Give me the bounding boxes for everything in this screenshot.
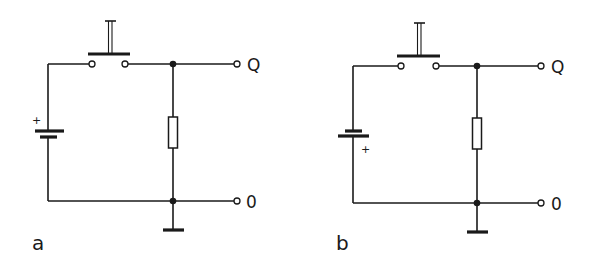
- output-terminal-q: [234, 61, 240, 67]
- switch-contact-right: [122, 61, 128, 67]
- switch-contact-left: [89, 61, 95, 67]
- push-button-switch-icon: [397, 23, 440, 69]
- circuit-figure: + Q 0 a: [0, 0, 591, 263]
- output-terminal-q: [538, 63, 544, 69]
- output-label-q: Q: [551, 57, 564, 77]
- resistor-icon: [473, 118, 482, 149]
- figure-label-a: a: [32, 231, 44, 255]
- circuit-b: + Q 0 b: [336, 23, 564, 255]
- switch-contact-right: [433, 63, 439, 69]
- junction-bottom: [170, 198, 177, 205]
- switch-contact-left: [398, 63, 404, 69]
- output-label-0: 0: [246, 192, 257, 212]
- battery-plus-label: +: [32, 114, 41, 127]
- output-label-0: 0: [551, 194, 562, 214]
- battery-icon: +: [338, 131, 370, 156]
- push-button-switch-icon: [88, 21, 130, 67]
- figure-label-b: b: [336, 231, 349, 255]
- junction-bottom: [474, 200, 481, 207]
- output-terminal-0: [234, 198, 240, 204]
- output-label-q: Q: [247, 55, 260, 75]
- output-terminal-0: [538, 200, 544, 206]
- resistor-icon: [169, 117, 178, 148]
- battery-plus-label: +: [361, 143, 370, 156]
- circuit-a: + Q 0 a: [32, 21, 260, 255]
